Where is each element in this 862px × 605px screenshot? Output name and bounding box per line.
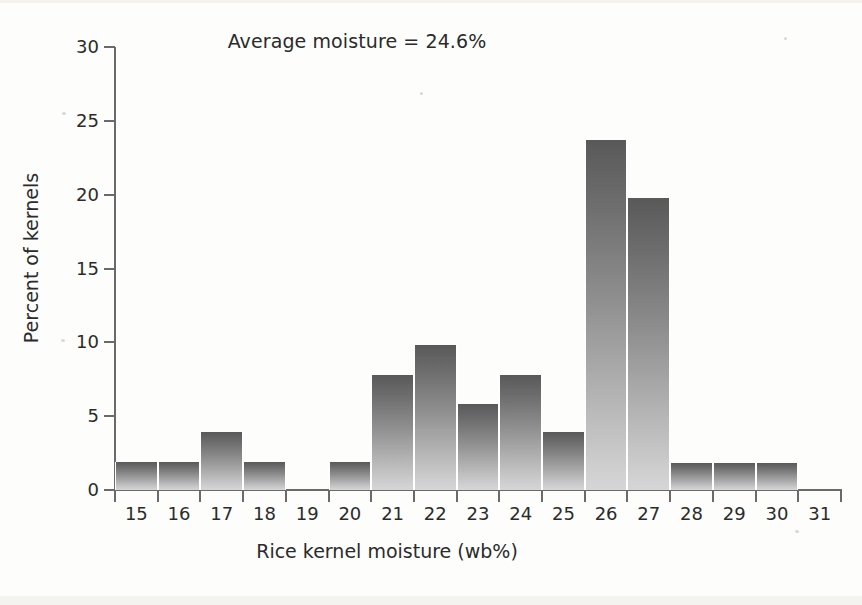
- y-tick-label-25: 25: [55, 112, 99, 130]
- x-tick-mark-6: [370, 491, 372, 502]
- x-tick-mark-10: [541, 491, 543, 502]
- x-tick-label-27: 27: [627, 505, 671, 523]
- y-tick-mark-15: [104, 268, 115, 270]
- x-tick-label-25: 25: [541, 505, 585, 523]
- bar-26: [585, 140, 628, 490]
- bar-21: [371, 375, 414, 490]
- y-tick-label-0: 0: [55, 481, 99, 499]
- bar-series: [115, 47, 841, 490]
- x-tick-label-28: 28: [670, 505, 714, 523]
- x-tick-label-19: 19: [285, 505, 329, 523]
- y-tick-label-5: 5: [55, 407, 99, 425]
- x-tick-mark-5: [328, 491, 330, 502]
- x-tick-label-15: 15: [114, 505, 158, 523]
- x-tick-label-17: 17: [200, 505, 244, 523]
- x-axis-title: Rice kernel moisture (wb%): [0, 540, 818, 562]
- bar-16: [158, 462, 201, 490]
- y-tick-mark-25: [104, 120, 115, 122]
- x-tick-mark-3: [242, 491, 244, 502]
- x-tick-mark-15: [755, 491, 757, 502]
- x-tick-mark-1: [157, 491, 159, 502]
- x-tick-mark-8: [456, 491, 458, 502]
- bar-20: [329, 462, 372, 490]
- x-tick-mark-12: [626, 491, 628, 502]
- x-tick-mark-7: [413, 491, 415, 502]
- x-tick-label-21: 21: [371, 505, 415, 523]
- x-tick-mark-4: [285, 491, 287, 502]
- x-tick-mark-17: [840, 491, 842, 502]
- bar-17: [200, 432, 243, 490]
- bar-18: [243, 462, 286, 490]
- x-tick-label-29: 29: [712, 505, 756, 523]
- x-tick-label-23: 23: [456, 505, 500, 523]
- x-tick-mark-16: [797, 491, 799, 502]
- x-tick-mark-9: [498, 491, 500, 502]
- x-tick-label-26: 26: [584, 505, 628, 523]
- bar-28: [670, 463, 713, 490]
- x-tick-label-18: 18: [242, 505, 286, 523]
- histogram-figure: Average moisture = 24.6% Percent of kern…: [0, 0, 862, 605]
- y-tick-mark-20: [104, 194, 115, 196]
- x-tick-label-22: 22: [413, 505, 457, 523]
- scan-speck: [795, 530, 799, 533]
- x-tick-label-31: 31: [798, 505, 842, 523]
- plot-area: [115, 47, 841, 490]
- x-tick-label-20: 20: [328, 505, 372, 523]
- y-tick-mark-30: [104, 46, 115, 48]
- bar-24: [499, 375, 542, 490]
- y-tick-mark-5: [104, 415, 115, 417]
- y-tick-label-10: 10: [55, 333, 99, 351]
- x-tick-mark-11: [584, 491, 586, 502]
- bar-29: [713, 463, 756, 490]
- bar-23: [457, 404, 500, 490]
- x-tick-label-24: 24: [499, 505, 543, 523]
- x-tick-mark-0: [114, 491, 116, 502]
- page-edge-bottom: [0, 596, 862, 605]
- x-tick-mark-2: [199, 491, 201, 502]
- x-tick-label-30: 30: [755, 505, 799, 523]
- y-tick-mark-10: [104, 341, 115, 343]
- x-tick-label-16: 16: [157, 505, 201, 523]
- bar-22: [414, 345, 457, 490]
- x-tick-mark-14: [712, 491, 714, 502]
- bar-30: [756, 463, 799, 490]
- bar-25: [542, 432, 585, 490]
- y-axis-title: Percent of kernels: [20, 148, 42, 368]
- x-tick-mark-13: [669, 491, 671, 502]
- bar-27: [627, 198, 670, 490]
- y-tick-label-15: 15: [55, 260, 99, 278]
- y-tick-label-20: 20: [55, 186, 99, 204]
- bar-15: [115, 462, 158, 490]
- y-tick-label-30: 30: [55, 38, 99, 56]
- page-edge-top: [0, 0, 862, 3]
